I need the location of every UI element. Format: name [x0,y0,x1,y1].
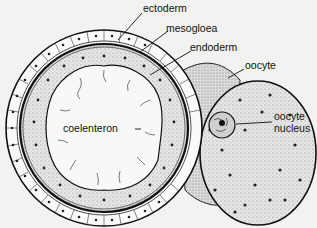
label-oocyte-nucleus-line1: oocyte [274,110,305,122]
label-oocyte-nucleus-line2: nucleus [274,122,310,134]
hydra-diagram [0,0,317,228]
label-ectoderm: ectoderm [143,2,187,14]
label-endoderm: endoderm [190,41,237,53]
oocyte [200,81,316,225]
label-mesogloea: mesogloea [166,22,217,34]
label-oocyte: oocyte [245,59,276,71]
label-coelenteron: coelenteron [63,122,118,134]
